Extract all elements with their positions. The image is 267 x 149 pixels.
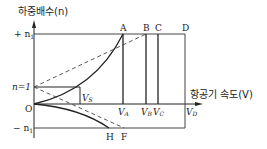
vs-label: VS <box>82 93 93 103</box>
point-b-label: B <box>143 23 150 33</box>
vb-label: VB <box>141 107 153 117</box>
point-c-label: C <box>155 23 162 33</box>
y-axis-label: 하중배수(n) <box>18 5 68 17</box>
x-axis-label: 항공기 속도(V) <box>190 89 253 100</box>
point-d-label: D <box>182 23 189 33</box>
origin-label: O <box>25 104 32 114</box>
point-a-label: A <box>119 23 127 33</box>
point-f-label: F <box>121 132 127 142</box>
vn-diagram: 하중배수(n) + n1 n=1 O − n1 A B C D H F VS V… <box>0 0 267 149</box>
point-h-label: H <box>106 132 114 142</box>
va-label: VA <box>118 107 130 117</box>
gust-line-lower <box>34 87 124 128</box>
x-axis-arrow-icon <box>195 102 203 106</box>
y-axis-arrow-icon <box>32 20 36 28</box>
vc-label: VC <box>153 107 165 117</box>
vd-label: VD <box>186 107 198 117</box>
neg-n1-label: − n1 <box>13 123 33 134</box>
n-one-label: n=1 <box>12 82 31 92</box>
pos-n1-label: + n1 <box>14 29 34 40</box>
gust-line-upper <box>34 34 146 87</box>
